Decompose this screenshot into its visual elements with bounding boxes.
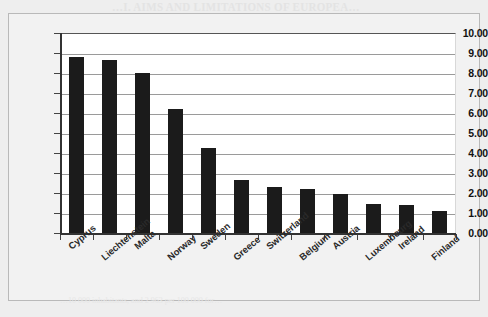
bar (234, 180, 250, 233)
bar (102, 60, 118, 233)
x-axis-tick-mark (225, 234, 226, 240)
bar (168, 109, 184, 233)
x-axis-tick-mark (60, 234, 61, 240)
page-footer-bleedthrough: …10 000 inhabitants, and 2 963 per 100 0… (60, 296, 440, 306)
bar (432, 211, 448, 233)
bar-chart: 0.001.002.003.004.005.006.007.008.009.00… (0, 0, 488, 317)
x-axis-tick-mark (159, 234, 160, 240)
x-axis-label: Norway (165, 232, 198, 262)
x-axis-label: Greece (231, 234, 262, 263)
bar (267, 187, 283, 233)
bar (333, 194, 349, 233)
x-axis-tick-mark (357, 234, 358, 240)
x-axis-label: Belgium (297, 230, 332, 262)
x-axis-tick-mark (291, 234, 292, 240)
x-axis-tick-mark (423, 234, 424, 240)
bar (135, 73, 151, 233)
bar (69, 57, 85, 233)
x-axis-tick-mark (93, 234, 94, 240)
bars-group (60, 33, 456, 233)
bar (366, 204, 382, 233)
bar (201, 148, 217, 233)
